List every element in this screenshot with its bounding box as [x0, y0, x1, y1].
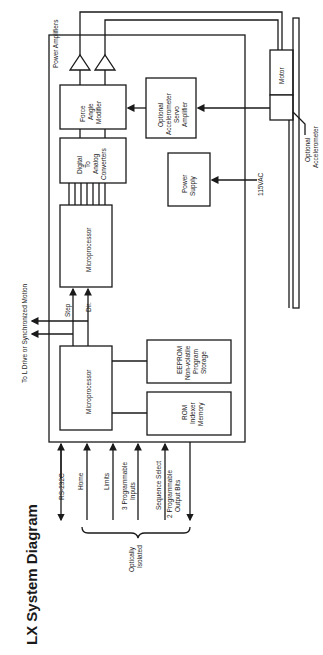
microprocessor-top-label: Microprocessor — [85, 227, 93, 272]
programmable-inputs-label: 3 Programmable Inputs — [121, 462, 137, 510]
svg-text:ROM: ROM — [181, 405, 188, 420]
page-title: LX System Diagram — [23, 504, 40, 645]
power-supply-label: Power Supply — [181, 174, 197, 196]
svg-text:3 Programmable: 3 Programmable — [121, 462, 129, 510]
to-l-drive-label: To L Drive or Synchronized Motion — [21, 284, 29, 383]
svg-text:To: To — [84, 161, 91, 168]
svg-text:Servo: Servo — [173, 106, 180, 123]
svg-text:Storage: Storage — [200, 351, 208, 374]
svg-text:Non-volatile: Non-volatile — [184, 345, 191, 380]
svg-text:Converters: Converters — [100, 147, 107, 180]
step-label: Step — [64, 303, 72, 317]
svg-text:Angle: Angle — [87, 103, 95, 120]
vac-label: 115VAC — [257, 172, 264, 196]
data-bus-lines — [69, 183, 105, 205]
svg-text:Digital: Digital — [76, 155, 84, 174]
svg-text:EEPROM: EEPROM — [176, 346, 183, 374]
optional-accelerometer-label: Optional Accelerometer — [304, 125, 319, 168]
svg-text:Supply: Supply — [189, 175, 197, 196]
svg-text:Program: Program — [192, 349, 200, 374]
svg-text:Accelerometer: Accelerometer — [312, 125, 319, 168]
motor-label: Motor — [278, 67, 285, 84]
limits-label: Limits — [103, 472, 110, 490]
svg-text:Output Bits: Output Bits — [174, 479, 182, 512]
programmable-outputs-label: 2 Programmable Output Bits — [166, 470, 182, 518]
microprocessor-bottom-label: Microprocessor — [85, 369, 93, 414]
sequence-select-label: Sequence Select — [155, 461, 163, 510]
power-amplifier-2-icon — [95, 55, 115, 70]
power-amplifier-1-icon — [70, 55, 90, 70]
svg-text:Analog: Analog — [92, 153, 100, 174]
power-amplifiers-label: Power Amplifiers — [52, 19, 60, 68]
svg-text:Accelerometer: Accelerometer — [165, 92, 172, 135]
svg-text:Indexer: Indexer — [189, 401, 196, 424]
dir-label: Dir. — [85, 302, 92, 312]
amp2-to-motor-line — [105, 20, 278, 57]
svg-text:Isolated: Isolated — [136, 545, 143, 568]
svg-text:Power: Power — [181, 174, 188, 193]
rs232-label: RS-232C — [58, 473, 65, 500]
svg-text:Optional: Optional — [157, 102, 165, 127]
home-label: Home — [77, 472, 84, 490]
svg-text:Memory: Memory — [197, 402, 205, 426]
svg-text:Modifier: Modifier — [95, 100, 102, 124]
svg-text:Optional: Optional — [304, 137, 312, 162]
svg-text:2 Programmable: 2 Programmable — [166, 470, 174, 518]
svg-text:Optically: Optically — [128, 546, 136, 572]
svg-text:Amplifier: Amplifier — [181, 101, 189, 127]
accelerometer-block — [270, 95, 293, 120]
svg-text:Inputs: Inputs — [129, 482, 137, 500]
optically-isolated-label: Optically Isolated — [128, 545, 143, 572]
optically-isolated-brace — [82, 527, 190, 538]
svg-text:Force: Force — [79, 105, 86, 122]
lx-system-diagram: Power Amplifiers Force Angle Modifier Di… — [0, 0, 323, 655]
motor-shaft — [293, 18, 299, 308]
